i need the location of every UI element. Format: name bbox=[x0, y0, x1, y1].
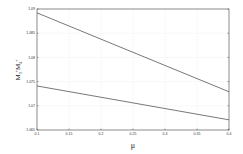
grid-lines bbox=[37, 9, 229, 130]
x-tick-label: 0.1 bbox=[35, 132, 40, 136]
svg-text:M3+M4+: M3+M4+ bbox=[14, 59, 23, 81]
y-label-sup2: + bbox=[14, 59, 19, 62]
y-tick-label: 1.08 bbox=[28, 56, 35, 60]
y-tick-label: 1.07 bbox=[28, 104, 35, 108]
x-tick-label: 0.15 bbox=[66, 132, 73, 136]
x-tick-label: 0.35 bbox=[194, 132, 201, 136]
y-tick-label: 1.075 bbox=[26, 80, 35, 84]
x-tick-label: 0.25 bbox=[130, 132, 137, 136]
y-tick-label: 1.085 bbox=[26, 31, 35, 35]
x-tick-label: 0.2 bbox=[99, 132, 104, 136]
line-chart: 0.10.150.20.250.30.350.4 1.0651.071.0751… bbox=[0, 0, 243, 154]
y-axis-label: M3+M4+ bbox=[14, 59, 23, 81]
y-tick-label: 1.09 bbox=[28, 7, 35, 11]
x-tick-label: 0.3 bbox=[163, 132, 168, 136]
y-axis-ticks: 1.0651.071.0751.081.0851.09 bbox=[26, 7, 229, 132]
x-tick-label: 0.4 bbox=[227, 132, 232, 136]
x-axis-ticks: 0.10.150.20.250.30.350.4 bbox=[35, 129, 232, 137]
x-axis-label: μ bbox=[131, 141, 135, 150]
y-tick-label: 1.065 bbox=[26, 128, 35, 132]
